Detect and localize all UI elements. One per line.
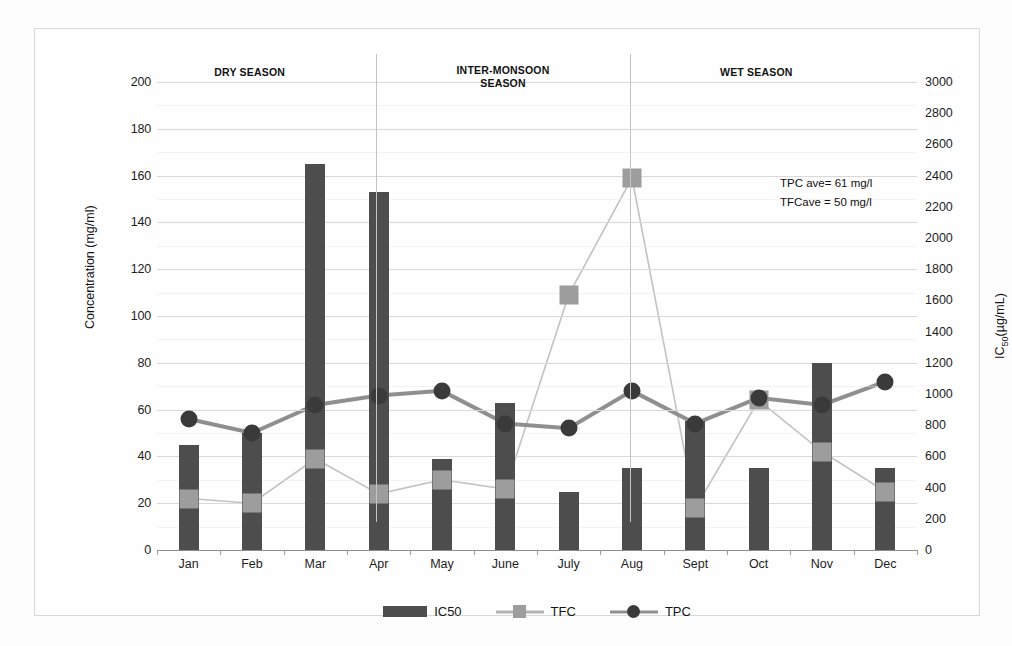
y-tick-label-left: 40 [137, 449, 151, 463]
x-tick-label: May [410, 557, 473, 581]
x-tick [347, 550, 348, 555]
marker-tpc [434, 382, 451, 399]
y-axis-right-labels: 0200400600800100012001400160018002000220… [925, 82, 975, 550]
x-tick [727, 550, 728, 555]
x-tick [157, 550, 158, 555]
y-tick-label-left: 140 [131, 215, 151, 229]
marker-tfc [179, 489, 198, 508]
gridline-minor [157, 480, 917, 481]
marker-tfc [623, 168, 642, 187]
y-tick-label-right: 1600 [925, 293, 953, 307]
bar-ic50 [749, 468, 769, 550]
gridline [157, 129, 917, 130]
bar-ic50 [242, 433, 262, 550]
line-tfc [189, 178, 886, 508]
gridline [157, 410, 917, 411]
y-tick-label-left: 180 [131, 122, 151, 136]
marker-tpc [180, 410, 197, 427]
x-tick [410, 550, 411, 555]
chart-frame: 020406080100120140160180200 020040060080… [34, 28, 980, 616]
y-tick-label-left: 60 [137, 403, 151, 417]
marker-tpc [624, 382, 641, 399]
y-tick-label-right: 2200 [925, 200, 953, 214]
x-tick-label: Sept [664, 557, 727, 581]
x-tick [664, 550, 665, 555]
marker-tfc [243, 494, 262, 513]
y-tick-label-right: 200 [925, 512, 946, 526]
legend-item-ic50: IC50 [383, 604, 461, 619]
gridline-minor [157, 527, 917, 528]
marker-tpc [560, 420, 577, 437]
legend-swatch-tfc [496, 606, 544, 617]
legend-item-tfc: TFC [496, 604, 576, 619]
y-tick-label-right: 2600 [925, 137, 953, 151]
line-tpc [189, 382, 886, 433]
legend-label-ic50: IC50 [434, 604, 461, 619]
x-tick-label: Jan [157, 557, 220, 581]
bar-ic50 [559, 492, 579, 551]
marker-tfc [496, 480, 515, 499]
gridline [157, 503, 917, 504]
y-tick-label-left: 0 [144, 543, 151, 557]
season-divider [630, 54, 631, 522]
chart-page: 020406080100120140160180200 020040060080… [0, 0, 1012, 646]
x-tick [790, 550, 791, 555]
bar-ic50 [622, 468, 642, 550]
gridline-minor [157, 152, 917, 153]
marker-tfc [433, 470, 452, 489]
y-tick-label-right: 2000 [925, 231, 953, 245]
season-label: INTER-MONSOONSEASON [376, 64, 629, 90]
gridline [157, 363, 917, 364]
x-tick-label: Apr [347, 557, 410, 581]
gridline [157, 269, 917, 270]
gridline-minor [157, 246, 917, 247]
marker-tfc [369, 484, 388, 503]
legend-circle-icon [627, 605, 640, 618]
bar-ic50 [875, 468, 895, 550]
y-axis-left-title: Concentration (mg/ml) [83, 205, 97, 329]
x-tick [474, 550, 475, 555]
y-axis-right-title: IC50(µg/mL) [993, 293, 1010, 359]
x-tick-label: June [474, 557, 537, 581]
annotation-line: TPC ave= 61 mg/l [780, 174, 872, 193]
y-tick-label-right: 1400 [925, 325, 953, 339]
x-tick-label: Nov [790, 557, 853, 581]
legend-square-icon [513, 605, 526, 618]
x-tick-label: Feb [220, 557, 283, 581]
marker-tfc [306, 449, 325, 468]
y-tick-label-right: 3000 [925, 75, 953, 89]
y-tick-label-right: 400 [925, 481, 946, 495]
marker-tpc [877, 373, 894, 390]
y-tick-label-right: 1800 [925, 262, 953, 276]
marker-tpc [814, 396, 831, 413]
y-tick-label-left: 80 [137, 356, 151, 370]
season-label: WET SEASON [630, 66, 883, 79]
gridline-minor [157, 433, 917, 434]
marker-tpc [497, 415, 514, 432]
x-tick-label: Mar [284, 557, 347, 581]
legend-label-tpc: TPC [665, 604, 691, 619]
gridline-minor [157, 386, 917, 387]
averages-annotation: TPC ave= 61 mg/lTFCave = 50 mg/l [780, 174, 872, 212]
season-label: DRY SEASON [123, 66, 376, 79]
y-tick-label-left: 160 [131, 169, 151, 183]
x-tick-label: Aug [600, 557, 663, 581]
gridline-minor [157, 105, 917, 106]
marker-tpc [307, 396, 324, 413]
y-tick-label-left: 100 [131, 309, 151, 323]
gridline [157, 222, 917, 223]
bar-ic50 [685, 421, 705, 550]
y-tick-label-right: 600 [925, 449, 946, 463]
marker-tpc [370, 387, 387, 404]
y-axis-left-labels: 020406080100120140160180200 [113, 82, 151, 550]
x-tick-label: July [537, 557, 600, 581]
y-tick-label-right: 1200 [925, 356, 953, 370]
x-axis-labels: JanFebMarAprMayJuneJulyAugSeptOctNovDec [157, 557, 917, 581]
gridline [157, 456, 917, 457]
plot-area [157, 82, 917, 550]
marker-tpc [244, 425, 261, 442]
legend-swatch-tpc [610, 606, 658, 617]
x-tick [537, 550, 538, 555]
chart-legend: IC50 TFC TPC [157, 604, 917, 619]
gridline-minor [157, 293, 917, 294]
